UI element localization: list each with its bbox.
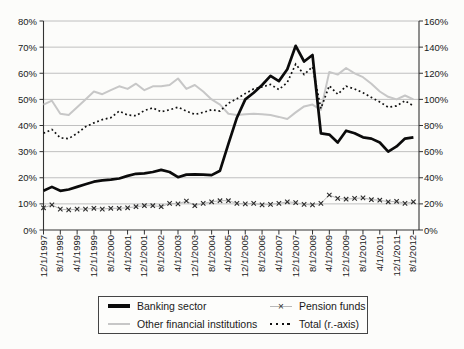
y-axis-left-label: 0%: [0, 225, 37, 236]
x-axis-label: 12/1/2011: [391, 235, 403, 315]
pension-x-marker: [327, 193, 331, 197]
banking-line-swatch: [108, 304, 130, 308]
legend-item: Total (r.-axis): [270, 318, 367, 330]
legend-label: Other financial institutions: [137, 318, 257, 330]
series-other-financial-institutions: [44, 68, 414, 119]
legend-label: Total (r.-axis): [299, 318, 359, 330]
legend-item: Banking sector: [108, 300, 270, 312]
pension-x-swatch: ×: [270, 301, 292, 312]
x-axis-label: 12/1/1997: [38, 235, 50, 315]
y-axis-left-label: 20%: [0, 172, 37, 183]
other-financial-line-swatch: [108, 323, 130, 325]
y-axis-left-label: 40%: [0, 120, 37, 131]
y-axis-left-label: 30%: [0, 146, 37, 157]
y-axis-left-label: 60%: [0, 68, 37, 79]
y-axis-right-label: 80%: [424, 120, 464, 131]
y-axis-left-label: 80%: [0, 16, 37, 27]
y-axis-right-label: 40%: [424, 172, 464, 183]
y-axis-left-label: 10%: [0, 198, 37, 209]
y-axis-right-label: 100%: [424, 94, 464, 105]
y-axis-right-label: 20%: [424, 198, 464, 209]
pension-x-marker: [184, 199, 188, 203]
y-axis-right-label: 120%: [424, 68, 464, 79]
y-axis-right-label: 140%: [424, 42, 464, 53]
y-axis-right-label: 160%: [424, 16, 464, 27]
y-axis-right-label: 60%: [424, 146, 464, 157]
x-axis-label: 4/1/2011: [374, 235, 386, 315]
legend-label: Pension funds: [299, 300, 366, 312]
y-axis-left-label: 50%: [0, 94, 37, 105]
series-pension-funds-line: [44, 195, 414, 210]
legend-item: ×Pension funds: [270, 300, 367, 312]
series-banking-sector: [44, 46, 414, 191]
pension-x-marker: [50, 203, 54, 207]
x-axis-label: 8/1/1998: [54, 235, 66, 315]
legend: Banking sector×Pension fundsOther financ…: [98, 296, 368, 334]
x-axis-label: 4/1/1999: [71, 235, 83, 315]
y-axis-left-label: 70%: [0, 42, 37, 53]
financial-sector-assets-chart: 0%10%20%30%40%50%60%70%80%0%20%40%60%80%…: [0, 0, 464, 349]
x-axis-label: 8/1/2012: [407, 235, 419, 315]
total-dotted-swatch: [270, 323, 292, 326]
legend-label: Banking sector: [137, 300, 206, 312]
legend-item: Other financial institutions: [108, 318, 270, 330]
y-axis-right-label: 0%: [424, 225, 464, 236]
